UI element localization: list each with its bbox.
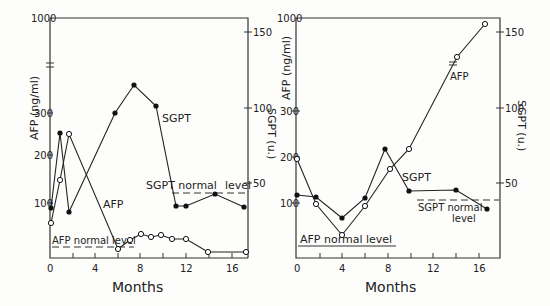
x-tick-8: 8: [137, 263, 143, 274]
y-tick-200: 200: [34, 150, 53, 161]
x-tick-12: 12: [180, 263, 193, 274]
right-tick-50: 50: [253, 178, 266, 189]
right-tick-50: 50: [505, 178, 518, 189]
right-tick-150: 150: [505, 27, 524, 38]
y-axis-title-left: AFP (ng/ml): [280, 36, 293, 100]
sgpt-normal-label: SGPT normal: [418, 202, 482, 213]
afp-annotation: AFP: [103, 198, 124, 211]
y-tick-100: 100: [280, 198, 299, 209]
x-tick-4: 4: [339, 263, 345, 274]
sgpt-level-label: level: [452, 213, 476, 224]
x-tick-0: 0: [294, 263, 300, 274]
plot-frame: [50, 18, 248, 258]
figure: 1000 300 200 100 150 100 50 0 4 8 12 16 …: [0, 0, 550, 306]
x-tick-16: 16: [473, 263, 486, 274]
afp-annotation: AFP: [450, 71, 469, 82]
sgpt-annotation: SGPT: [162, 112, 191, 125]
y-axis-title-right: SGPT (u.): [515, 100, 528, 151]
chart-left: 1000 300 200 100 150 100 50 0 4 8 12 16 …: [28, 13, 278, 295]
sgpt-annotation: SGPT: [402, 171, 431, 184]
y-tick-300: 300: [280, 106, 299, 117]
afp-normal-label: AFP normal level: [300, 233, 392, 246]
x-axis-title: Months: [112, 279, 163, 295]
y-axis-title-left: AFP (ng/ml): [28, 76, 41, 140]
right-tick-150: 150: [253, 27, 272, 38]
x-axis-title: Months: [365, 279, 416, 295]
y-tick-1000: 1000: [277, 13, 302, 24]
x-tick-0: 0: [47, 263, 53, 274]
sgpt-series-markers: [48, 82, 246, 214]
x-tick-12: 12: [427, 263, 440, 274]
sgpt-level-label: level: [225, 179, 251, 192]
sgpt-normal-label: SGPT normal: [146, 179, 217, 192]
x-tick-4: 4: [92, 263, 98, 274]
afp-normal-label: AFP normal level: [52, 235, 136, 246]
y-tick-1000: 1000: [31, 13, 56, 24]
chart-right: 1000 300 200 100 150 100 50 0 4 8 12 16 …: [277, 13, 528, 295]
x-tick-16: 16: [226, 263, 239, 274]
x-tick-8: 8: [385, 263, 391, 274]
y-axis-title-right: SGPT (u.): [265, 108, 278, 159]
